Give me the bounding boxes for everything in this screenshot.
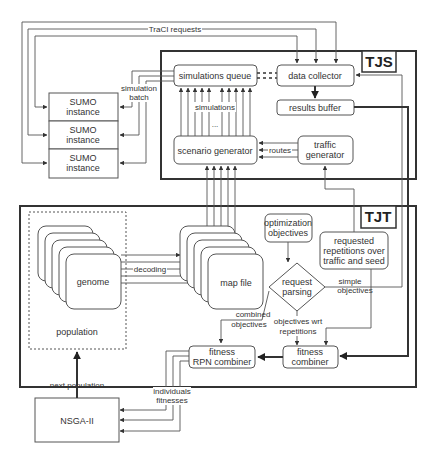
svg-text:instance: instance [66,163,100,173]
map-file-label: map file [220,278,252,288]
individuals-fitnesses-label: individuals [153,387,190,396]
repetitions-to-traffic-edge [325,166,354,232]
queue-collector-link [257,73,277,78]
svg-text:fitness: fitness [297,347,324,357]
decoding-label: decoding [134,265,166,274]
request-parsing: request parsing [269,263,325,311]
svg-text:traffic: traffic [314,140,336,150]
svg-text:objectives: objectives [268,228,309,238]
requested-repetitions: requested repetitions over traffic and s… [320,232,388,269]
svg-text:request: request [282,277,313,287]
svg-text:optimization: optimization [264,218,312,228]
svg-text:simulations queue: simulations queue [179,71,252,81]
svg-text:requested: requested [334,236,374,246]
svg-text:combiner: combiner [291,357,328,367]
individuals-fitnesses-edges: individuals fitnesses [120,351,191,431]
next-population-edge: next population [50,352,104,398]
fitness-combiner: fitness combiner [283,346,338,368]
routes-edges: routes [259,143,298,157]
nsga-ii: NSGA-II [35,398,119,442]
svg-text:results buffer: results buffer [289,103,341,113]
sumo-instances: SUMO instance SUMO instance SUMO instanc… [49,93,118,178]
svg-text:parsing: parsing [282,287,312,297]
architecture-diagram: TJS TJT TraCI requests SUMO instance SUM… [0,0,434,461]
combined-objectives-label: combined [236,310,271,319]
svg-text:fitnesses: fitnesses [156,396,188,405]
svg-text:objectives: objectives [337,286,373,295]
svg-text:RPN combiner: RPN combiner [193,357,252,367]
scenario-generator: scenario generator [174,136,257,164]
svg-text:instance: instance [66,135,100,145]
svg-text:data collector: data collector [288,71,342,81]
svg-text:SUMO: SUMO [70,97,97,107]
results-buffer: results buffer [277,100,354,115]
simple-objectives-label: simple [338,277,362,286]
routes-label: routes [269,146,291,155]
simulations-edges: simulations ... [181,88,250,136]
svg-text:SUMO: SUMO [70,153,97,163]
svg-text:repetitions: repetitions [280,327,317,336]
traffic-generator: traffic generator [298,136,353,164]
data-collector: data collector [277,65,354,86]
svg-text:population: population [56,327,98,337]
objectives-wrt-repetitions-edge: objectives wrt repetitions [272,311,324,345]
simulation-batch-edges: simulation batch [120,71,174,163]
svg-text:scenario generator: scenario generator [177,146,252,156]
tjt-label: TJT [365,208,392,225]
svg-text:repetitions over: repetitions over [323,246,385,256]
svg-text:traffic and seed: traffic and seed [323,256,384,266]
sumo-instance-2: SUMO instance [49,121,118,149]
svg-text:batch: batch [129,93,149,102]
genome-stack: genome [38,226,121,309]
fitness-rpn-combiner: fitness RPN combiner [189,346,255,368]
map-file-stack: map file [180,226,263,309]
simulations-label: simulations [195,103,235,112]
svg-text:fitness: fitness [209,347,236,357]
simulations-queue: simulations queue [174,65,257,86]
svg-text:instance: instance [66,107,100,117]
svg-text:SUMO: SUMO [70,125,97,135]
optimization-objectives: optimization objectives [264,214,312,242]
traci-requests-label: TraCI requests [149,25,202,34]
svg-text:objectives: objectives [231,320,267,329]
tjs-label: TJS [365,53,393,70]
sumo-instance-3: SUMO instance [49,149,118,178]
svg-text:NSGA-II: NSGA-II [60,416,94,426]
sumo-instance-1: SUMO instance [49,93,118,121]
genome-label: genome [77,277,110,287]
svg-text:generator: generator [306,150,345,160]
ellipsis-label: ... [212,120,219,129]
simulation-batch-label: simulation [121,84,157,93]
objectives-wrt-repetitions-label: objectives wrt [274,317,323,326]
next-population-label: next population [50,381,104,390]
